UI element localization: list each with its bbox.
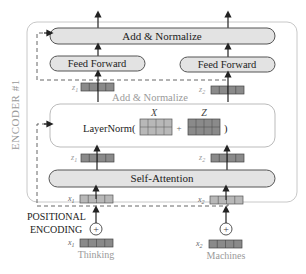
x2-input-vector xyxy=(209,240,242,248)
x1-input-label: x1 xyxy=(67,238,75,248)
x1-inner-label: x1 xyxy=(67,194,75,204)
plus-1: + xyxy=(93,224,99,235)
positional-encoding-line1: POSITIONAL xyxy=(27,211,86,222)
positional-encoding-line2: ENCODING xyxy=(30,224,82,235)
x2-input-label: x2 xyxy=(195,239,203,249)
plus-2: + xyxy=(223,224,229,235)
x2-inner-label: x2 xyxy=(197,195,205,205)
matrix-z xyxy=(188,119,220,135)
matrix-x-label: X xyxy=(150,107,158,118)
encoder-diagram: ENCODER #1 Add & Normalize Feed Forward … xyxy=(0,0,306,274)
add-normalize-mid-label: Add & Normalize xyxy=(112,92,188,103)
encoder-label: ENCODER #1 xyxy=(9,79,21,150)
z1-upper-label: z1 xyxy=(71,83,78,93)
z2-lower-label: z2 xyxy=(198,153,205,163)
layernorm-plus: + xyxy=(176,123,181,133)
feed-forward-1-label: Feed Forward xyxy=(68,58,127,69)
matrix-x xyxy=(140,119,172,135)
word-machines: Machines xyxy=(207,250,246,261)
x1-input-vector xyxy=(80,239,113,247)
layernorm-prefix: LayerNorm( xyxy=(83,123,136,135)
matrix-z-label: Z xyxy=(201,107,207,118)
z1-lower-label: z1 xyxy=(70,153,77,163)
feed-forward-2-label: Feed Forward xyxy=(198,59,257,70)
z2-upper-label: z2 xyxy=(198,85,205,95)
word-thinking: Thinking xyxy=(78,249,115,260)
add-normalize-top-label: Add & Normalize xyxy=(122,30,202,42)
self-attention-label: Self-Attention xyxy=(131,172,194,184)
layernorm-suffix: ) xyxy=(224,123,228,135)
